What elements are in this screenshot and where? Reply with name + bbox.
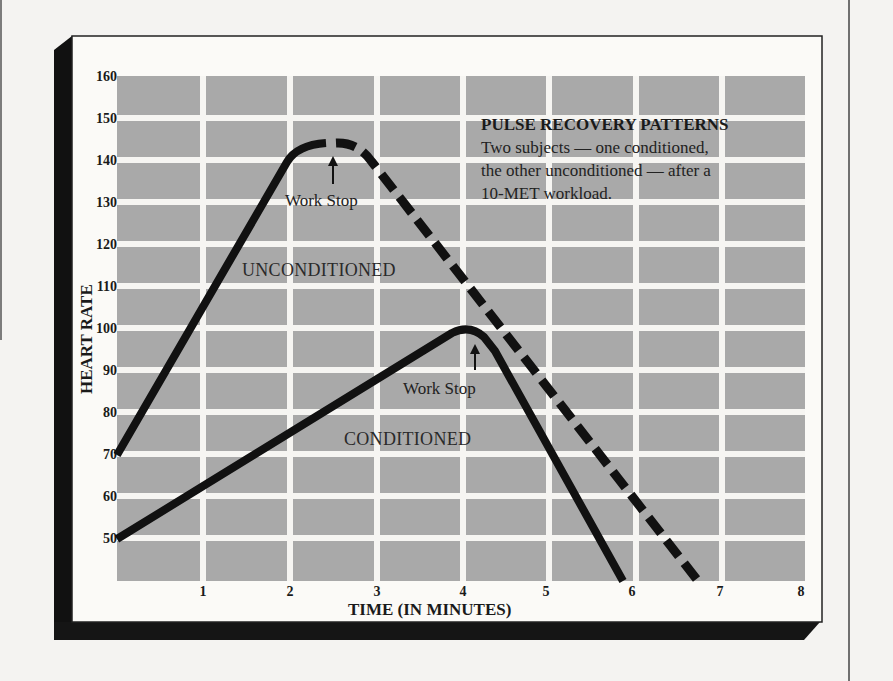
svg-text:130: 130 — [96, 195, 117, 210]
svg-text:1: 1 — [200, 584, 207, 599]
svg-text:110: 110 — [97, 279, 117, 294]
svg-text:6: 6 — [629, 584, 636, 599]
svg-text:5: 5 — [543, 584, 550, 599]
card-left-edge — [54, 36, 72, 640]
region-label-unconditioned: UNCONDITIONED — [242, 260, 396, 280]
svg-text:60: 60 — [103, 489, 117, 504]
card-bottom-edge — [54, 622, 820, 640]
work-stop-label-unconditioned: Work Stop — [285, 191, 358, 210]
region-label-conditioned: CONDITIONED — [344, 429, 471, 449]
svg-text:150: 150 — [96, 111, 117, 126]
svg-text:160: 160 — [96, 69, 117, 84]
chart-subtitle-line-1: Two subjects — one conditioned, — [481, 138, 709, 157]
chart-title: PULSE RECOVERY PATTERNS — [481, 115, 729, 134]
svg-text:80: 80 — [103, 405, 117, 420]
svg-text:120: 120 — [96, 237, 117, 252]
chart-subtitle-line-2: the other unconditioned — after a — [481, 161, 711, 180]
svg-text:90: 90 — [103, 363, 117, 378]
chart-root: 160 150 140 130 120 110 100 90 80 70 60 … — [0, 0, 893, 681]
x-axis-title: TIME (IN MINUTES) — [348, 600, 511, 619]
svg-text:8: 8 — [798, 584, 805, 599]
svg-text:70: 70 — [103, 447, 117, 462]
svg-text:2: 2 — [287, 584, 294, 599]
y-axis-title: HEART RATE — [77, 284, 96, 394]
svg-text:7: 7 — [717, 584, 724, 599]
svg-text:100: 100 — [96, 321, 117, 336]
svg-text:3: 3 — [374, 584, 381, 599]
svg-text:140: 140 — [96, 153, 117, 168]
chart-subtitle-line-3: 10-MET workload. — [481, 184, 612, 203]
svg-text:4: 4 — [460, 584, 467, 599]
svg-text:50: 50 — [103, 531, 117, 546]
work-stop-label-conditioned: Work Stop — [403, 379, 476, 398]
